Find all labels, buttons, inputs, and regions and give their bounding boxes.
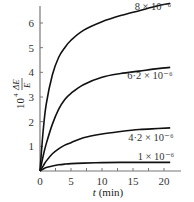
svg-text:10: 10	[14, 98, 26, 110]
y-tick-label: 6	[29, 17, 35, 29]
x-tick-label: 5	[68, 175, 74, 187]
y-tick-label: 5	[29, 42, 35, 54]
x-axis-title: t (min)	[93, 186, 124, 199]
series-labels: 8 × 10⁻⁶6·2 × 10⁻⁶4·2 × 10⁻⁶1 × 10⁻⁶	[127, 1, 174, 162]
x-tick-label: 0	[37, 175, 43, 187]
y-tick-label: 4	[29, 66, 35, 78]
series-label: 8 × 10⁻⁶	[135, 1, 172, 12]
series-label: 4·2 × 10⁻⁶	[128, 132, 174, 143]
svg-text:4: 4	[12, 93, 20, 97]
y-tick-label: 2	[29, 116, 35, 128]
series-curve	[40, 162, 170, 171]
curves	[40, 3, 170, 171]
series-label: 1 × 10⁻⁶	[138, 151, 175, 162]
chart-canvas: 12345605101520 8 × 10⁻⁶6·2 × 10⁻⁶4·2 × 1…	[0, 0, 194, 202]
series-label: 6·2 × 10⁻⁶	[127, 70, 173, 81]
series-curve	[40, 3, 170, 171]
svg-text:ΔE: ΔE	[11, 79, 21, 91]
svg-text:E: E	[22, 82, 32, 89]
y-tick-label: 1	[29, 140, 35, 152]
y-tick-label: 3	[29, 91, 35, 103]
x-tick-label: 15	[128, 175, 140, 187]
x-tick-label: 20	[159, 175, 171, 187]
